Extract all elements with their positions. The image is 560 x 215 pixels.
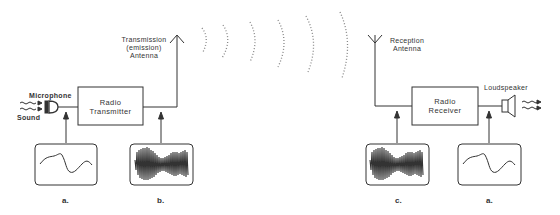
sound-label: Sound	[17, 114, 40, 122]
scope-caption-c: c.	[395, 196, 402, 205]
reception-antenna-label: Reception Antenna	[383, 37, 431, 53]
microphone-label: Microphone	[29, 92, 72, 100]
radio-receiver-label: Radio Receiver	[412, 97, 478, 115]
audio-waveform-a-right	[463, 154, 515, 173]
sound-input-arrows-icon	[20, 101, 42, 111]
loudspeaker-label: Loudspeaker	[484, 84, 528, 92]
scope-caption-a-right: a.	[486, 196, 493, 205]
transmission-antenna-label: Transmission (emission) Antenna	[114, 36, 174, 60]
modulated-waveform-b	[135, 147, 188, 180]
scope-caption-b: b.	[157, 196, 164, 205]
radio-transmitter-label: Radio Transmitter	[78, 98, 143, 116]
audio-waveform-a-left	[40, 154, 92, 173]
reception-antenna-icon	[368, 35, 382, 43]
radio-waves	[202, 12, 348, 78]
sound-output-arrows-icon	[522, 100, 541, 110]
loudspeaker-icon	[502, 95, 515, 117]
scope-caption-a-left: a.	[62, 196, 69, 205]
modulated-waveform-c	[370, 147, 423, 180]
microphone-icon	[45, 101, 58, 113]
scope-a-right	[458, 144, 521, 185]
